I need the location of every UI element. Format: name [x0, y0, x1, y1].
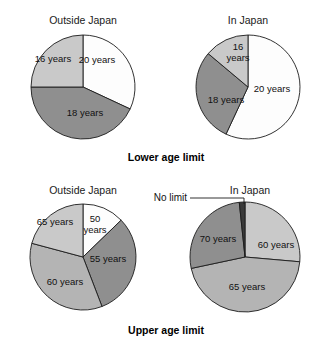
pie-chart-figure: Outside Japan In Japan Outside Japan In …: [0, 0, 331, 344]
pie-slice-label: 18 years: [67, 107, 104, 118]
pie-slice-label: 60 years: [47, 276, 84, 287]
pie-chart-lower-outside-japan: 20 years18 years16 years: [31, 35, 135, 139]
pie-slice-label: 60 years: [258, 239, 295, 250]
panel-title-upper-outside-japan: Outside Japan: [49, 184, 117, 196]
pie-slice-label: 20 years: [79, 54, 116, 65]
pie-slice-label: 20 years: [254, 83, 291, 94]
pie-slice-label: 70 years: [200, 233, 237, 244]
panel-title-lower-in-japan: In Japan: [228, 14, 268, 26]
pie-chart-lower-in-japan: 20 years18 years16years: [196, 35, 300, 139]
pie-chart-upper-in-japan: 60 years65 years70 years: [190, 202, 300, 312]
pie-slice-label: 18 years: [208, 94, 245, 105]
pie-slice-label: 16 years: [35, 53, 72, 64]
caption-lower-age-limit: Lower age limit: [128, 151, 205, 163]
panel-title-upper-in-japan: In Japan: [230, 184, 270, 196]
caption-upper-age-limit: Upper age limit: [128, 324, 204, 336]
no-limit-label: No limit: [154, 192, 188, 203]
pie-chart-upper-outside-japan: 50years55 years60 years65 years: [30, 204, 136, 310]
pie-slice-label: 65 years: [37, 216, 74, 227]
pie-slice-label: 55 years: [90, 253, 127, 264]
panel-title-lower-outside-japan: Outside Japan: [49, 14, 117, 26]
pie-slice-label: 65 years: [229, 281, 266, 292]
